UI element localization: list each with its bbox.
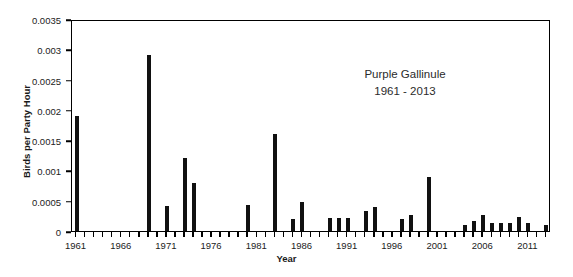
x-tick-mark	[481, 232, 483, 237]
bars-layer	[72, 21, 549, 231]
bar	[373, 207, 377, 231]
x-tick-mark	[373, 232, 375, 237]
x-tick-mark	[382, 232, 384, 237]
chart-annotation: Purple Gallinule 1961 - 2013	[320, 66, 490, 100]
x-tick-label: 2006	[472, 240, 493, 251]
x-tick-mark	[509, 232, 511, 237]
y-tick-label: 0.003	[37, 45, 61, 56]
x-tick-label: 1976	[201, 240, 222, 251]
x-tick-mark	[536, 232, 538, 237]
bar	[165, 206, 169, 231]
x-tick-mark	[463, 232, 465, 237]
x-tick-mark	[84, 232, 86, 237]
chart-subtitle: 1961 - 2013	[320, 83, 490, 100]
x-tick-mark	[545, 232, 547, 237]
x-tick-mark	[500, 232, 502, 237]
x-tick-mark	[310, 232, 312, 237]
x-tick-mark	[156, 232, 158, 237]
chart-title: Purple Gallinule	[320, 66, 490, 83]
x-tick-label: 1961	[65, 240, 86, 251]
x-tick-mark	[409, 232, 411, 237]
x-tick-mark	[472, 232, 474, 237]
x-tick-mark	[301, 232, 303, 237]
bar	[499, 223, 503, 231]
x-tick-label: 1981	[246, 240, 267, 251]
x-tick-mark	[174, 232, 176, 237]
x-tick-label: 1996	[381, 240, 402, 251]
x-tick-mark	[246, 232, 248, 237]
x-tick-mark	[518, 232, 520, 237]
bar	[291, 219, 295, 231]
x-tick-mark	[274, 232, 276, 237]
x-tick-mark	[147, 232, 149, 237]
x-tick-mark	[454, 232, 456, 237]
bar	[346, 218, 350, 231]
y-tick-label: 0.0015	[32, 136, 61, 147]
x-tick-label: 1966	[110, 240, 131, 251]
bar	[192, 183, 196, 231]
x-tick-mark	[328, 232, 330, 237]
x-tick-mark	[400, 232, 402, 237]
bar	[183, 158, 187, 231]
x-tick-mark	[183, 232, 185, 237]
x-tick-mark	[337, 232, 339, 237]
x-tick-label: 2001	[426, 240, 447, 251]
x-tick-mark	[436, 232, 438, 237]
bar	[472, 221, 476, 231]
x-tick-mark	[102, 232, 104, 237]
x-tick-label: 1971	[155, 240, 176, 251]
bar	[273, 134, 277, 231]
x-tick-mark	[138, 232, 140, 237]
x-tick-label: 2011	[517, 240, 537, 251]
plot-area	[71, 20, 550, 232]
x-axis: 1961196619711976198119861991199620012006…	[0, 232, 573, 252]
y-tick-label: 0.0035	[32, 15, 61, 26]
x-tick-mark	[427, 232, 429, 237]
y-tick-label: 0.0005	[32, 196, 61, 207]
x-tick-mark	[75, 232, 77, 237]
bar	[364, 211, 368, 231]
x-tick-label: 1991	[336, 240, 357, 251]
y-tick-label: 0.001	[37, 166, 61, 177]
y-axis-title: Birds per Party Hour	[21, 62, 32, 202]
bar	[400, 219, 404, 231]
x-tick-label: 1986	[291, 240, 312, 251]
x-tick-mark	[228, 232, 230, 237]
x-tick-mark	[391, 232, 393, 237]
x-tick-mark	[165, 232, 167, 237]
bar	[544, 225, 548, 231]
bar	[526, 223, 530, 231]
x-tick-mark	[283, 232, 285, 237]
y-axis: 00.00050.0010.00150.0020.00250.0030.0035	[0, 0, 71, 232]
bar	[481, 215, 485, 231]
x-tick-mark	[527, 232, 529, 237]
bar	[409, 215, 413, 231]
x-tick-mark	[120, 232, 122, 237]
bar	[508, 223, 512, 231]
bar	[147, 55, 151, 231]
bar	[246, 205, 250, 231]
x-tick-mark	[355, 232, 357, 237]
x-tick-mark	[256, 232, 258, 237]
x-tick-mark	[201, 232, 203, 237]
x-tick-mark	[364, 232, 366, 237]
chart-container: 00.00050.0010.00150.0020.00250.0030.0035…	[0, 0, 573, 277]
y-tick-label: 0.0025	[32, 75, 61, 86]
x-tick-mark	[129, 232, 131, 237]
x-tick-mark	[319, 232, 321, 237]
bar	[463, 225, 467, 231]
x-axis-title: Year	[0, 253, 573, 264]
x-tick-mark	[346, 232, 348, 237]
x-tick-mark	[292, 232, 294, 237]
bar	[328, 218, 332, 231]
x-tick-mark	[210, 232, 212, 237]
x-tick-mark	[491, 232, 493, 237]
bar	[427, 177, 431, 232]
x-tick-mark	[219, 232, 221, 237]
bar	[300, 202, 304, 231]
bar	[75, 116, 79, 231]
x-tick-mark	[111, 232, 113, 237]
x-tick-mark	[93, 232, 95, 237]
bar	[490, 223, 494, 231]
x-tick-mark	[237, 232, 239, 237]
